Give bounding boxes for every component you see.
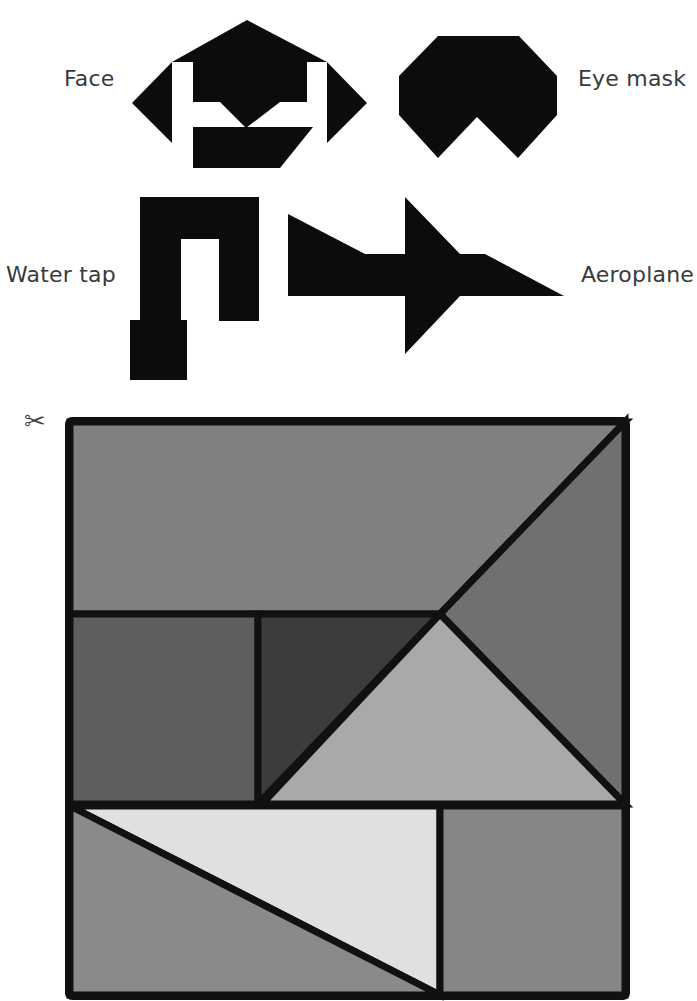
eye-mask-figure bbox=[399, 36, 557, 158]
piece-bottom-left-triangle bbox=[70, 806, 440, 995]
piece-left-square bbox=[70, 614, 258, 804]
face-figure bbox=[132, 20, 367, 168]
aeroplane-figure bbox=[288, 197, 564, 354]
piece-right-triangle bbox=[440, 422, 625, 804]
scissors-icon: ✂ bbox=[24, 408, 46, 434]
piece-top-parallelogram bbox=[70, 422, 625, 614]
piece-middle-triangle bbox=[262, 614, 625, 804]
piece-dark-triangle bbox=[258, 614, 440, 804]
silhouettes bbox=[0, 0, 697, 400]
piece-bottom-light-triangle bbox=[70, 806, 440, 995]
piece-bottom-right-square bbox=[440, 806, 625, 995]
water-tap-figure bbox=[130, 197, 259, 380]
